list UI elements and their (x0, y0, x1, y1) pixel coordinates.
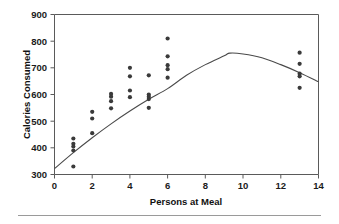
data-point (90, 116, 94, 120)
data-points-group (71, 36, 301, 168)
x-tick-label-8: 8 (203, 180, 208, 191)
data-point (147, 106, 151, 110)
regression-curve (55, 53, 319, 169)
y-tick-label-500: 500 (31, 116, 47, 127)
x-axis-title: Persons at Meal (150, 196, 222, 207)
data-point (109, 95, 113, 99)
x-tick-label-14: 14 (313, 180, 324, 191)
x-axis-tick-labels: 0 2 4 6 8 10 12 14 (52, 180, 325, 191)
data-point (109, 106, 113, 110)
data-point (166, 54, 170, 58)
x-tick-label-12: 12 (276, 180, 287, 191)
x-axis-ticks (55, 175, 319, 179)
plot-border (55, 15, 319, 175)
data-point (298, 86, 302, 90)
x-tick-label-4: 4 (127, 180, 133, 191)
y-tick-label-600: 600 (31, 89, 47, 100)
data-point (71, 164, 75, 168)
data-point (166, 36, 170, 40)
scatter-plot-chart: 300 400 500 600 700 800 900 0 2 4 6 8 10 (0, 0, 339, 224)
data-point (71, 136, 75, 140)
y-tick-label-900: 900 (31, 9, 47, 20)
y-axis-ticks (51, 15, 55, 175)
data-point (298, 51, 302, 55)
data-point (90, 131, 94, 135)
data-point (90, 110, 94, 114)
data-point (109, 99, 113, 103)
data-point (147, 97, 151, 101)
x-tick-label-6: 6 (165, 180, 170, 191)
data-point (166, 67, 170, 71)
y-tick-label-800: 800 (31, 36, 47, 47)
data-point (128, 95, 132, 99)
x-tick-label-2: 2 (90, 180, 95, 191)
data-point (128, 74, 132, 78)
data-point (166, 76, 170, 80)
y-tick-label-400: 400 (31, 142, 47, 153)
x-tick-label-0: 0 (52, 180, 57, 191)
plot-frame (55, 15, 319, 175)
y-tick-label-700: 700 (31, 62, 47, 73)
data-point (147, 73, 151, 77)
y-tick-label-300: 300 (31, 169, 47, 180)
y-axis-title: Calories Consumed (21, 50, 32, 139)
data-point (71, 148, 75, 152)
data-point (128, 66, 132, 70)
figure-container: 300 400 500 600 700 800 900 0 2 4 6 8 10 (0, 0, 339, 224)
data-point (298, 62, 302, 66)
data-point (71, 144, 75, 148)
data-point (166, 63, 170, 67)
y-axis-tick-labels: 300 400 500 600 700 800 900 (31, 9, 47, 180)
data-point (298, 74, 302, 78)
data-point (128, 88, 132, 92)
x-tick-label-10: 10 (238, 180, 249, 191)
